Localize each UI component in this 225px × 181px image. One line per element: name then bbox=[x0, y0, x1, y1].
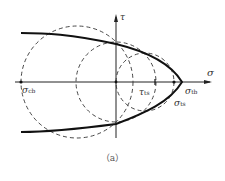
label-tau-ts: τts bbox=[139, 88, 149, 97]
point-origin bbox=[115, 81, 118, 84]
sigma-axis-arrow-icon bbox=[204, 80, 212, 84]
tau-axis-label: τ bbox=[120, 13, 125, 22]
sigma-axis-label: σ bbox=[207, 68, 214, 78]
tau-axis-arrow-icon bbox=[114, 14, 118, 22]
label-sigma-ts: σts bbox=[174, 99, 186, 108]
label-sigma-tb: σtb bbox=[185, 87, 197, 96]
point-sigma-ts bbox=[172, 80, 175, 83]
point-sigma-cb bbox=[19, 80, 22, 83]
label-sigma-cb: σcb bbox=[22, 86, 35, 95]
figure-caption: （a） bbox=[0, 151, 225, 164]
